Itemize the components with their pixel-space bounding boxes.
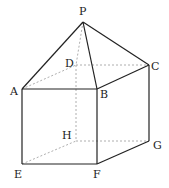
label-D: D bbox=[65, 57, 74, 70]
visible-edges bbox=[22, 22, 149, 164]
label-C: C bbox=[151, 60, 159, 73]
edge-BC bbox=[97, 65, 149, 89]
edge-PB bbox=[83, 22, 97, 89]
label-P: P bbox=[79, 5, 87, 18]
label-H: H bbox=[62, 129, 72, 142]
edge-PA bbox=[22, 22, 83, 89]
label-E: E bbox=[14, 168, 22, 181]
hidden-edges bbox=[22, 22, 149, 164]
edge-FG bbox=[97, 141, 149, 164]
edge-EH bbox=[22, 141, 76, 164]
label-A: A bbox=[9, 85, 19, 98]
label-F: F bbox=[93, 168, 101, 181]
pyramid-cube-diagram: P D C A B H G E F bbox=[0, 0, 169, 188]
label-G: G bbox=[153, 139, 162, 152]
edge-PC bbox=[83, 22, 149, 65]
label-B: B bbox=[100, 88, 108, 101]
